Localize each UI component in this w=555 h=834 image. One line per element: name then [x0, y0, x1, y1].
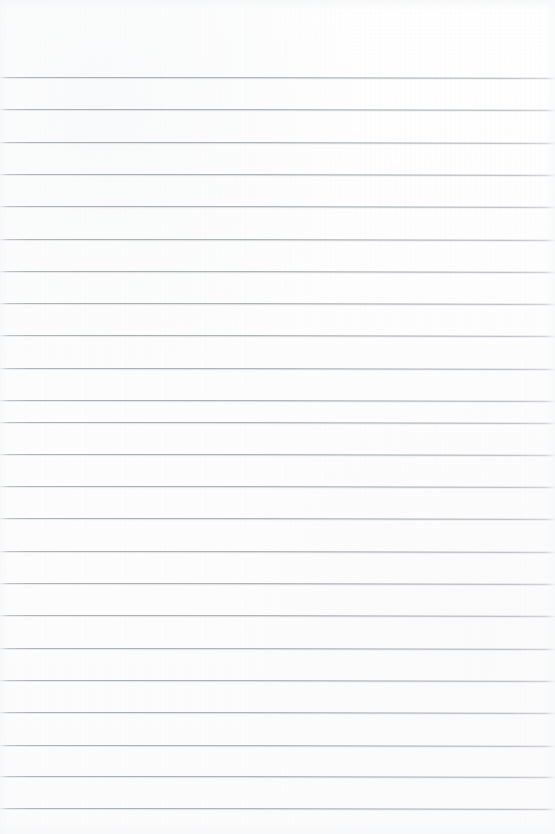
writing-line [0, 313, 555, 335]
writing-line [0, 496, 555, 518]
rule-line [0, 303, 555, 305]
writing-line [0, 281, 555, 303]
writing-line [0, 561, 555, 583]
rule-line [0, 808, 555, 810]
writing-line [0, 723, 555, 745]
rule-line [0, 239, 555, 241]
writing-line [0, 120, 555, 142]
rule-line [0, 615, 555, 617]
writing-line [0, 593, 555, 615]
writing-line [0, 249, 555, 271]
rule-line [0, 368, 555, 370]
writing-line [0, 432, 555, 454]
rule-line [0, 206, 555, 208]
writing-line [0, 464, 555, 486]
writing-line [0, 690, 555, 712]
writing-line [0, 754, 555, 776]
writing-line [0, 152, 555, 174]
rule-line [0, 77, 555, 79]
rule-line [0, 142, 555, 144]
rule-line [0, 486, 555, 488]
rule-line [0, 648, 555, 650]
rule-line [0, 551, 555, 553]
writing-line [0, 55, 555, 77]
writing-line [0, 87, 555, 109]
rule-line [0, 271, 555, 273]
writing-line [0, 786, 555, 808]
rule-line [0, 745, 555, 747]
rule-line [0, 335, 555, 337]
rule-line [0, 583, 555, 585]
writing-line [0, 529, 555, 551]
writing-line [0, 184, 555, 206]
rule-line [0, 680, 555, 682]
writing-line [0, 346, 555, 368]
rule-line [0, 776, 555, 778]
lined-paper-page [0, 0, 555, 834]
writing-line [0, 658, 555, 680]
writing-line [0, 217, 555, 239]
rule-line [0, 174, 555, 176]
rule-line [0, 422, 555, 424]
rule-line [0, 518, 555, 520]
writing-line [0, 378, 555, 400]
rule-line [0, 712, 555, 714]
writing-line [0, 400, 555, 422]
rule-line [0, 109, 555, 111]
writing-line [0, 626, 555, 648]
rule-line [0, 454, 555, 456]
